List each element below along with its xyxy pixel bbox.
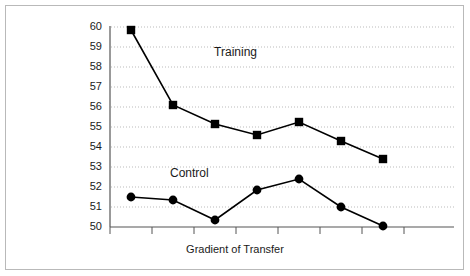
y-axis-tick-label: 59 xyxy=(80,41,102,52)
data-point-control-7 xyxy=(379,222,388,231)
data-point-training-5 xyxy=(295,118,303,126)
y-axis-tick-label: 53 xyxy=(80,161,102,172)
series-label-control: Control xyxy=(170,167,209,179)
data-point-control-2 xyxy=(169,196,178,205)
data-point-training-3 xyxy=(211,120,219,128)
data-point-training-6 xyxy=(337,137,345,145)
x-axis-title: Gradient of Transfer xyxy=(0,243,470,255)
data-point-training-4 xyxy=(253,131,261,139)
y-axis-tick-label: 54 xyxy=(80,141,102,152)
x-axis-ticks xyxy=(110,227,404,234)
y-axis-tick-label: 60 xyxy=(80,21,102,32)
data-point-control-6 xyxy=(337,203,346,212)
data-point-training-1 xyxy=(127,26,135,34)
chart-figure: 5051525354555657585960 TrainingControl G… xyxy=(0,0,470,276)
gridlines xyxy=(111,27,454,207)
y-axis-tick-label: 56 xyxy=(80,101,102,112)
y-axis-tick-label: 50 xyxy=(80,221,102,232)
data-point-control-4 xyxy=(253,186,262,195)
data-point-control-3 xyxy=(211,216,220,225)
data-point-control-5 xyxy=(295,175,304,184)
chart-plot-area xyxy=(0,0,470,276)
y-axis-tick-label: 57 xyxy=(80,81,102,92)
y-axis-tick-label: 55 xyxy=(80,121,102,132)
data-point-training-7 xyxy=(379,155,387,163)
y-axis-tick-label: 58 xyxy=(80,61,102,72)
series-label-training: Training xyxy=(214,46,257,58)
series-lines xyxy=(131,30,383,226)
data-point-control-1 xyxy=(127,193,136,202)
y-axis-tick-label: 51 xyxy=(80,201,102,212)
y-axis-tick-label: 52 xyxy=(80,181,102,192)
data-point-training-2 xyxy=(169,101,177,109)
